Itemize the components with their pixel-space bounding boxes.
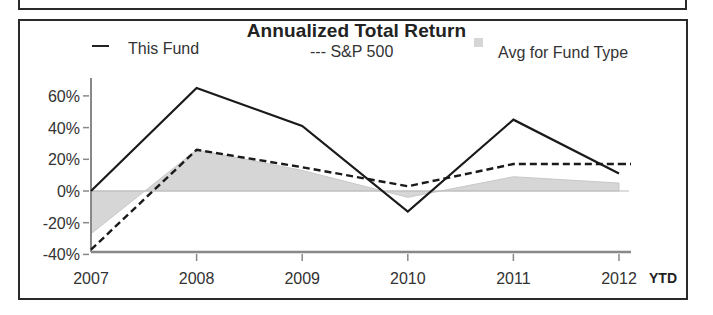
this-fund-polyline <box>91 88 619 212</box>
axes <box>91 78 631 252</box>
y-tick-label: -20% <box>43 215 80 232</box>
this-fund-line <box>91 88 619 212</box>
x-axis-ticks: 200720082009201020112012YTD <box>73 254 677 287</box>
avg-area-fill <box>91 150 619 234</box>
sp500-line <box>91 150 631 250</box>
x-tick-label: 2008 <box>179 270 215 287</box>
line-chart: 60%40%20%0%-20%-40% 20072008200920102011… <box>0 0 713 315</box>
x-tick-label: 2009 <box>284 270 320 287</box>
sp500-polyline <box>91 150 619 250</box>
x-tick-label: 2011 <box>496 270 531 287</box>
x-tick-label: 2007 <box>73 270 109 287</box>
y-tick-label: 60% <box>48 88 80 105</box>
avg-fund-type-area <box>91 150 619 234</box>
x-tick-label: 2010 <box>390 270 426 287</box>
ytd-label: YTD <box>649 270 677 286</box>
x-tick-label: 2012 <box>601 270 637 287</box>
y-axis-ticks: 60%40%20%0%-20%-40% <box>43 88 89 264</box>
y-tick-label: 0% <box>57 183 80 200</box>
y-tick-label: 20% <box>48 151 80 168</box>
y-tick-label: -40% <box>43 246 80 263</box>
y-tick-label: 40% <box>48 120 80 137</box>
